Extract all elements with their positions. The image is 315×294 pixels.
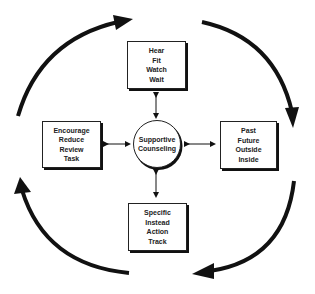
node-right: Past Future Outside Inside <box>220 121 277 169</box>
node-bottom-line: Action <box>147 227 169 237</box>
node-bottom: Specific Instead Action Track <box>128 203 187 251</box>
node-right-line: Past <box>241 126 256 136</box>
node-left-line: Task <box>64 154 79 164</box>
node-top: Hear Fit Watch Wait <box>127 41 186 89</box>
node-bottom-line: Instead <box>145 218 170 228</box>
node-bottom-line: Track <box>148 237 166 247</box>
node-right-line: Inside <box>238 155 258 165</box>
cycle-arrow-top-right <box>202 22 299 128</box>
node-right-line: Future <box>238 136 260 146</box>
node-center-line: Supportive <box>139 135 176 144</box>
node-left-line: Encourage <box>53 126 89 136</box>
cycle-arrow-bottom-right <box>192 181 294 279</box>
cycle-arrow-bottom-left <box>14 177 129 273</box>
node-bottom-line: Specific <box>144 208 171 218</box>
node-top-line: Wait <box>149 75 164 85</box>
node-center-line: Counseling <box>138 144 176 153</box>
node-left-line: Reduce <box>59 135 84 145</box>
node-left: Encourage Reduce Review Task <box>42 121 101 168</box>
cycle-arrow-top-left <box>18 15 133 116</box>
node-top-line: Fit <box>152 56 161 66</box>
node-top-line: Watch <box>146 65 167 75</box>
node-center: Supportive Counseling <box>133 120 181 168</box>
node-right-line: Outside <box>235 145 261 155</box>
node-left-line: Review <box>59 145 83 155</box>
node-top-line: Hear <box>149 46 165 56</box>
